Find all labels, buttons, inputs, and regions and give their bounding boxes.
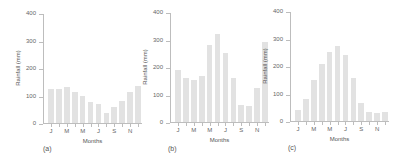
x-tick bbox=[338, 122, 339, 125]
y-tick-label: 0 bbox=[263, 118, 283, 124]
x-tick bbox=[314, 122, 315, 125]
bar-S bbox=[358, 103, 364, 121]
y-tick bbox=[286, 67, 290, 68]
bar-N bbox=[374, 113, 380, 121]
x-tick-label: M bbox=[324, 126, 336, 132]
x-tick bbox=[330, 122, 331, 125]
x-tick-label: M bbox=[308, 126, 320, 132]
y-tick bbox=[286, 122, 290, 123]
bar-F bbox=[303, 99, 309, 121]
x-tick bbox=[353, 122, 354, 125]
chart-panel: 0100200300400JMMJSNMonthsRainfall (mm)(c… bbox=[0, 0, 403, 163]
x-tick bbox=[385, 122, 386, 125]
x-tick bbox=[361, 122, 362, 125]
panel-caption: (c) bbox=[288, 144, 296, 151]
y-tick bbox=[286, 40, 290, 41]
bar-J bbox=[343, 55, 349, 121]
plot-area: 0100200300400JMMJSNMonthsRainfall (mm) bbox=[290, 12, 389, 122]
x-tick bbox=[306, 122, 307, 125]
x-tick bbox=[369, 122, 370, 125]
x-tick-label: N bbox=[371, 126, 383, 132]
x-tick-label: J bbox=[339, 126, 351, 132]
bar-A bbox=[351, 78, 357, 121]
y-axis-title: Rainfall (mm) bbox=[262, 36, 268, 96]
y-tick bbox=[286, 95, 290, 96]
bar-J bbox=[335, 46, 341, 121]
x-tick bbox=[322, 122, 323, 125]
y-tick bbox=[286, 12, 290, 13]
y-axis-line bbox=[290, 12, 291, 122]
y-tick-label: 400 bbox=[263, 8, 283, 14]
bar-A bbox=[319, 64, 325, 121]
x-tick-label: J bbox=[292, 126, 304, 132]
x-tick bbox=[345, 122, 346, 125]
x-tick bbox=[298, 122, 299, 125]
x-axis-line bbox=[290, 121, 389, 122]
bar-J bbox=[295, 110, 301, 121]
x-axis-title: Months bbox=[310, 136, 370, 142]
x-tick-label: S bbox=[355, 126, 367, 132]
x-tick bbox=[377, 122, 378, 125]
bar-M bbox=[327, 52, 333, 121]
bar-O bbox=[366, 112, 372, 121]
bar-M bbox=[311, 80, 317, 121]
bar-D bbox=[382, 112, 388, 121]
